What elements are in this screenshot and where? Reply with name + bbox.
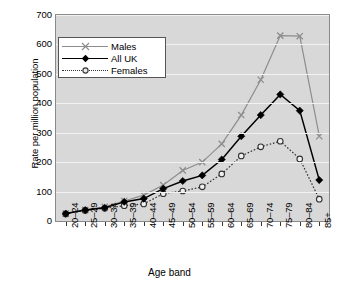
chart-figure: Rate per million population 010020030040… [0,0,339,284]
legend-sample-males [62,41,108,52]
circle-marker-icon [219,171,225,177]
x-tick-label: 40–44 [148,203,158,228]
y-tick-label: 500 [26,69,52,79]
y-tick-label: 0 [26,216,52,226]
x-axis-title: Age band [0,267,339,278]
circle-marker-icon [316,196,322,202]
circle-marker-icon [297,156,303,162]
x-tick-mark [261,222,262,226]
x-tick-label: 75–79 [284,203,294,228]
x-tick-mark [144,222,145,226]
x-tick-mark [319,222,320,226]
x-marker-icon [219,141,225,147]
x-tick-mark [105,222,106,226]
diamond-marker-icon [316,176,323,183]
x-tick-mark [124,222,125,226]
y-tick-label: 100 [26,187,52,197]
x-tick-label: 55–59 [206,203,216,228]
legend-sample-alluk [62,53,108,64]
x-tick-label: 65–69 [245,203,255,228]
x-tick-mark [222,222,223,226]
legend-label-alluk: All UK [108,53,137,64]
x-tick-label: 20–24 [70,203,80,228]
chart-legend: Males All UK Females [58,37,166,78]
circle-marker-icon [258,144,264,150]
x-tick-mark [66,222,67,226]
x-marker-icon [180,167,186,173]
gridline [56,192,329,193]
y-axis-tick-labels: 0100200300400500600700 [22,0,52,284]
x-tick-label: 80–84 [304,203,314,228]
y-tick-label: 300 [26,128,52,138]
x-tick-mark [241,222,242,226]
x-tick-mark [183,222,184,226]
x-tick-mark [300,222,301,226]
diamond-marker-icon [179,177,186,184]
y-tick-label: 400 [26,98,52,108]
x-tick-label: 60–64 [226,203,236,228]
x-tick-mark [202,222,203,226]
x-tick-label: 35–39 [128,203,138,228]
legend-item-females: Females [59,64,165,76]
legend-item-alluk: All UK [59,52,165,64]
y-tick-label: 700 [26,10,52,20]
diamond-marker-icon [81,54,90,63]
circle-marker-icon [238,153,244,159]
x-tick-mark [85,222,86,226]
x-marker-icon [238,112,244,118]
x-tick-label: 25–29 [89,203,99,228]
circle-marker-icon [81,66,90,75]
x-tick-label: 45–49 [167,203,177,228]
x-marker-icon [258,77,264,83]
series-all-uk [62,91,323,217]
y-tick-label: 200 [26,157,52,167]
circle-marker-icon [277,138,283,144]
x-marker-icon [81,42,90,51]
legend-item-males: Males [59,40,165,52]
x-tick-label: 50–54 [187,203,197,228]
x-tick-label: 70–74 [265,203,275,228]
circle-marker-icon [199,184,205,190]
gridline [56,103,329,104]
legend-sample-females [62,65,108,76]
x-tick-label: 30–34 [109,203,119,228]
x-tick-label: 85+ [323,212,333,228]
gridline [56,162,329,163]
series-line [66,95,319,214]
gridline [56,15,329,16]
x-tick-mark [280,222,281,226]
x-tick-mark [163,222,164,226]
y-tick-label: 600 [26,39,52,49]
legend-label-males: Males [108,41,136,52]
gridline [56,133,329,134]
legend-label-females: Females [108,65,147,76]
